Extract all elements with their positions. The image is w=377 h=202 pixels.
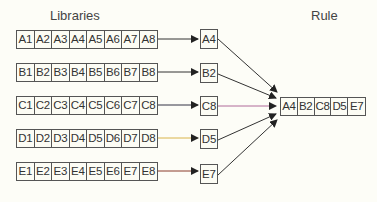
cell: D2 bbox=[35, 130, 53, 147]
cell: E3 bbox=[52, 163, 70, 180]
cell: E5 bbox=[87, 163, 105, 180]
cell: A4 bbox=[70, 31, 88, 48]
cell: D1 bbox=[17, 130, 35, 147]
cell: B1 bbox=[17, 64, 35, 81]
cell: D3 bbox=[52, 130, 70, 147]
cell: C4 bbox=[70, 97, 88, 114]
cell: C7 bbox=[122, 97, 140, 114]
cell: C1 bbox=[17, 97, 35, 114]
library-b: B1 B2 B3 B4 B5 B6 B7 B8 bbox=[16, 63, 158, 82]
library-a: A1 A2 A3 A4 A5 A6 A7 A8 bbox=[16, 30, 158, 49]
cell: E2 bbox=[35, 163, 53, 180]
cell: B6 bbox=[105, 64, 123, 81]
selected-b: B2 bbox=[200, 63, 218, 83]
cell: D8 bbox=[140, 130, 158, 147]
cell: B4 bbox=[70, 64, 88, 81]
cell: D7 bbox=[122, 130, 140, 147]
cell: A8 bbox=[140, 31, 158, 48]
cell: E4 bbox=[70, 163, 88, 180]
cell: E6 bbox=[105, 163, 123, 180]
rule-cell: E7 bbox=[348, 98, 365, 115]
cell: C2 bbox=[35, 97, 53, 114]
cell: A1 bbox=[17, 31, 35, 48]
selected-a: A4 bbox=[200, 29, 218, 49]
cell: B7 bbox=[122, 64, 140, 81]
selected-c: C8 bbox=[200, 96, 218, 116]
cell: B5 bbox=[87, 64, 105, 81]
cell: C6 bbox=[105, 97, 123, 114]
cell: E8 bbox=[140, 163, 158, 180]
selected-d: D5 bbox=[200, 129, 218, 149]
cell: A7 bbox=[122, 31, 140, 48]
cell: B3 bbox=[52, 64, 70, 81]
library-e: E1 E2 E3 E4 E5 E6 E7 E8 bbox=[16, 162, 158, 181]
cell: A3 bbox=[52, 31, 70, 48]
cell: D4 bbox=[70, 130, 88, 147]
cell: C8 bbox=[140, 97, 158, 114]
library-d: D1 D2 D3 D4 D5 D6 D7 D8 bbox=[16, 129, 158, 148]
rule-cell: B2 bbox=[298, 98, 315, 115]
rule-cell: A4 bbox=[281, 98, 298, 115]
cell: A5 bbox=[87, 31, 105, 48]
cell: A6 bbox=[105, 31, 123, 48]
library-c: C1 C2 C3 C4 C5 C6 C7 C8 bbox=[16, 96, 158, 115]
rule-cell: D5 bbox=[331, 98, 348, 115]
rule-cell: C8 bbox=[315, 98, 332, 115]
cell: D6 bbox=[105, 130, 123, 147]
cell: E1 bbox=[17, 163, 35, 180]
cell: D5 bbox=[87, 130, 105, 147]
cell: B2 bbox=[35, 64, 53, 81]
cell: E7 bbox=[122, 163, 140, 180]
cell: B8 bbox=[140, 64, 158, 81]
selected-e: E7 bbox=[200, 164, 218, 184]
cell: A2 bbox=[35, 31, 53, 48]
rule-box: A4 B2 C8 D5 E7 bbox=[280, 97, 366, 116]
cell: C5 bbox=[87, 97, 105, 114]
cell: C3 bbox=[52, 97, 70, 114]
